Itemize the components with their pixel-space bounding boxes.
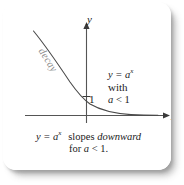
figure-card-inner: y x 1 decay y = ax with a < 1 y = axslop… [3, 2, 171, 170]
y-axis-label: y [87, 13, 92, 25]
caption-line-2: for a < 1. [11, 143, 166, 156]
caption-emphasis: downward [97, 131, 141, 142]
figure-card: y x 1 decay y = ax with a < 1 y = axslop… [3, 2, 171, 170]
decay-curve [34, 31, 159, 115]
caption-equation-base: y = a [36, 131, 58, 142]
annotation-equation-base: y = a [108, 69, 130, 80]
annotation-with: with [108, 81, 128, 93]
caption-verb: slopes [68, 131, 97, 142]
caption-condition-rel: < 1. [89, 143, 108, 154]
figure-page: y x 1 decay y = ax with a < 1 y = axslop… [0, 0, 184, 185]
y-intercept-label: 1 [89, 93, 95, 105]
caption-for: for [69, 143, 84, 154]
caption-line-1: y = axslopes downward [11, 129, 166, 143]
figure-caption: y = axslopes downward for a < 1. [11, 129, 166, 156]
annotation-condition: a < 1 [108, 94, 130, 106]
caption-equation-exponent: x [58, 129, 61, 137]
annotation-condition-rel: < 1 [113, 94, 129, 105]
x-axis-arrowhead [163, 112, 170, 118]
annotation-equation-exponent: x [130, 67, 133, 75]
annotation-equation: y = ax [108, 68, 133, 80]
